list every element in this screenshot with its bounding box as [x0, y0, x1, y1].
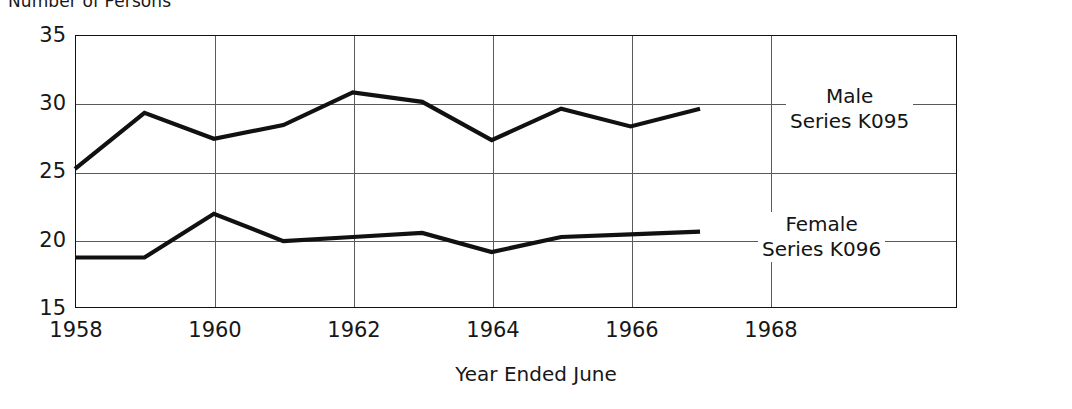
gridline-vertical-1966	[632, 36, 633, 307]
gridline-vertical-1960	[215, 36, 216, 307]
y-tick-label: 15	[4, 298, 66, 319]
chart-page: Number of Persons 35 30 25 20 15 Male Se…	[0, 0, 1072, 409]
series-annotation-male-line2: Series K095	[790, 109, 909, 134]
gridline-horizontal-25	[76, 173, 956, 174]
gridline-vertical-1964	[493, 36, 494, 307]
x-tick-label: 1962	[299, 318, 409, 342]
y-axis-tick-labels: 35 30 25 20 15	[0, 0, 66, 409]
x-tick-label: 1966	[577, 318, 687, 342]
y-tick-label: 20	[4, 230, 66, 251]
plot-area	[75, 35, 957, 308]
x-axis-title: Year Ended June	[0, 362, 1072, 386]
series-annotation-female-line1: Female	[762, 212, 881, 237]
y-tick-label: 25	[4, 161, 66, 182]
x-tick-label: 1958	[21, 318, 131, 342]
gridline-vertical-1962	[354, 36, 355, 307]
x-tick-label: 1968	[716, 318, 826, 342]
series-annotation-male-line1: Male	[790, 84, 909, 109]
series-annotation-female-line2: Series K096	[762, 237, 881, 262]
y-tick-label: 30	[4, 93, 66, 114]
gridline-vertical-1968	[771, 36, 772, 307]
series-annotation-female: Female Series K096	[758, 212, 885, 262]
y-tick-label: 35	[4, 25, 66, 46]
x-tick-label: 1960	[160, 318, 270, 342]
x-tick-label: 1964	[438, 318, 548, 342]
series-annotation-male: Male Series K095	[786, 84, 913, 134]
